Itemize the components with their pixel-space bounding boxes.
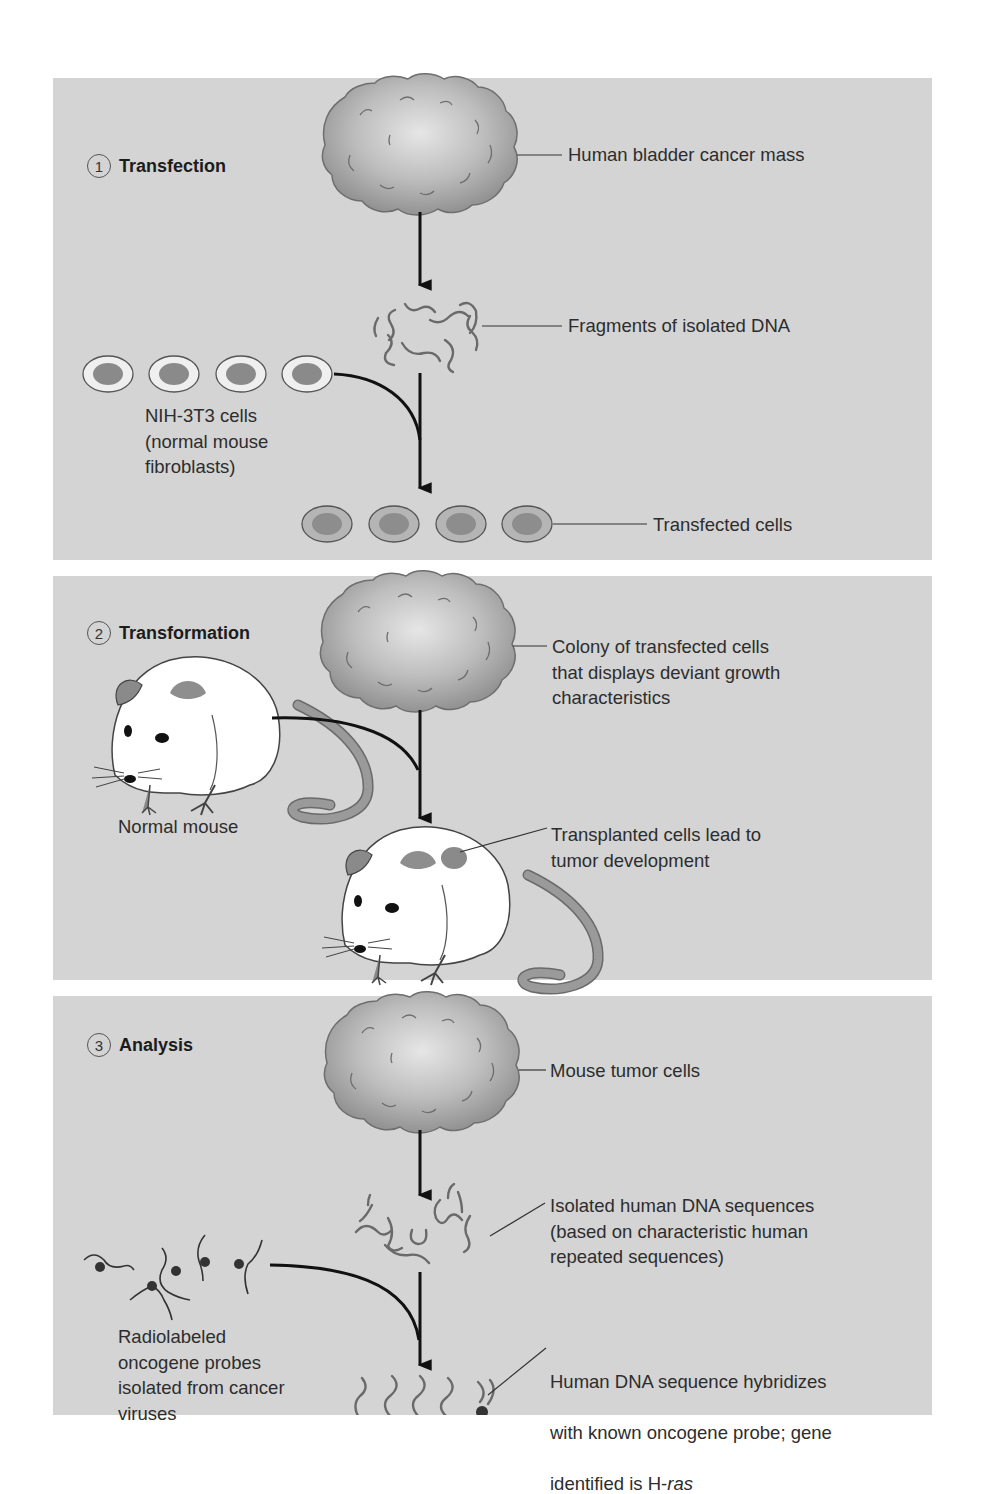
- step-number-badge: 2: [87, 621, 111, 645]
- transfected-cell-icon: [302, 506, 352, 542]
- mouse-icon: [92, 657, 368, 819]
- curved-arrow-icon: [334, 374, 420, 440]
- leader-line: [488, 1348, 546, 1395]
- step-title: Transfection: [119, 156, 226, 177]
- step-number-badge: 3: [87, 1033, 111, 1057]
- normal-cell-icon: [149, 356, 199, 392]
- transfected-cell-icon: [369, 506, 419, 542]
- leader-line: [490, 1203, 545, 1236]
- step-header-transformation: 2 Transformation: [87, 621, 250, 645]
- label-normal-mouse: Normal mouse: [118, 814, 238, 840]
- label-tumor-development: Transplanted cells lead to tumor develop…: [551, 822, 761, 873]
- gene-name: ras: [667, 1473, 693, 1494]
- label-mouse-tumor-cells: Mouse tumor cells: [550, 1058, 700, 1084]
- hybridized-dna-icon: [355, 1376, 493, 1415]
- label-hybridization: Human DNA sequence hybridizes with known…: [550, 1343, 832, 1494]
- step-header-transfection: 1 Transfection: [87, 154, 226, 178]
- hybrid-line-1: Human DNA sequence hybridizes: [550, 1369, 832, 1395]
- tumor-mass-icon: [324, 992, 519, 1133]
- hybrid-line-2: with known oncogene probe; gene: [550, 1420, 832, 1446]
- transfected-cell-icon: [502, 506, 552, 542]
- step-header-analysis: 3 Analysis: [87, 1033, 193, 1057]
- tumor-spot: [441, 847, 467, 869]
- curved-arrow-icon: [270, 1265, 419, 1340]
- radiolabeled-probe-icon: [84, 1235, 262, 1320]
- normal-cell-icon: [282, 356, 332, 392]
- normal-cell-icon: [83, 356, 133, 392]
- colony-mass-icon: [320, 571, 515, 712]
- step-title: Transformation: [119, 623, 250, 644]
- label-radiolabeled-probes: Radiolabeled oncogene probes isolated fr…: [118, 1324, 285, 1426]
- step-number-badge: 1: [87, 154, 111, 178]
- label-bladder-cancer-mass: Human bladder cancer mass: [568, 142, 805, 168]
- step-title: Analysis: [119, 1035, 193, 1056]
- label-human-dna-sequences: Isolated human DNA sequences (based on c…: [550, 1193, 814, 1270]
- dna-fragments-icon: [374, 303, 477, 372]
- tumor-mass-icon: [322, 74, 517, 215]
- transfected-cell-icon: [436, 506, 486, 542]
- normal-cell-icon: [216, 356, 266, 392]
- label-transfected-cells: Transfected cells: [653, 512, 792, 538]
- label-dna-fragments: Fragments of isolated DNA: [568, 313, 790, 339]
- label-colony: Colony of transfected cells that display…: [552, 634, 780, 711]
- hybridized-probe-dot: [476, 1406, 488, 1415]
- dna-fragments-icon: [356, 1184, 470, 1263]
- hybrid-line-3-prefix: identified is H-: [550, 1473, 667, 1494]
- label-nih3t3-cells: NIH-3T3 cells (normal mouse fibroblasts): [145, 403, 268, 480]
- hybrid-line-3: identified is H-ras: [550, 1471, 832, 1494]
